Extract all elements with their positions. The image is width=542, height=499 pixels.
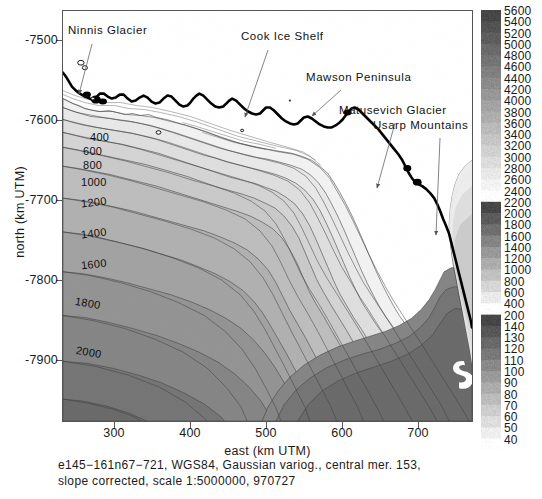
contour-label: 600: [83, 145, 102, 157]
y-axis-title: north (km UTM): [13, 142, 27, 282]
y-tick-label: -7800: [25, 273, 58, 287]
y-tick-label: -7700: [25, 193, 58, 207]
y-tick-label: -7500: [25, 33, 58, 47]
caption-line-1: e145−161n67−721, WGS84, Gaussian variog.…: [58, 457, 478, 473]
x-axis-title: east (km UTM): [62, 444, 473, 458]
x-tick-label: 500: [236, 426, 296, 440]
terrain-contour-fill: [63, 11, 472, 421]
figure-caption: e145−161n67−721, WGS84, Gaussian variog.…: [58, 457, 478, 489]
colorbar-tick-labels: 5600540052005000480046004400420040003800…: [504, 0, 542, 499]
x-tick-label: 600: [312, 426, 372, 440]
y-tick-label: -7600: [25, 113, 58, 127]
caption-line-2: slope corrected, scale 1:5000000, 970727: [58, 473, 478, 489]
x-tick-label: 400: [160, 426, 220, 440]
x-tick-label: 300: [84, 426, 144, 440]
contour-svg: [63, 11, 472, 421]
y-tick-label: -7900: [25, 353, 58, 367]
contour-label: 400: [90, 131, 109, 143]
contour-label: 800: [83, 159, 102, 171]
colorbar-gradient: [481, 10, 501, 450]
figure-root: 400 600 800 1000 1200 1400 1600 1800 200…: [0, 0, 542, 499]
contour-label: 1000: [81, 176, 107, 188]
colorbar-tick-label: 40: [504, 433, 518, 447]
colorbar[interactable]: [481, 10, 501, 450]
contour-map-plot-area[interactable]: [62, 10, 473, 422]
x-tick-label: 700: [388, 426, 448, 440]
